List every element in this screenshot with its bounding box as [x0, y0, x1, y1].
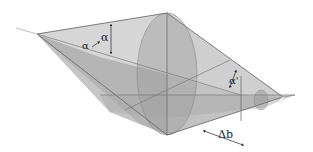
label-delta-b: Δb	[218, 128, 233, 141]
label-alpha-prime: α'	[229, 75, 239, 86]
axis-extension-left	[16, 28, 37, 34]
bicone-diagram: α α α' Δb	[0, 0, 313, 152]
right-small-ellipse	[254, 90, 268, 110]
label-alpha-small: α	[82, 40, 89, 51]
label-alpha: α	[101, 31, 109, 44]
